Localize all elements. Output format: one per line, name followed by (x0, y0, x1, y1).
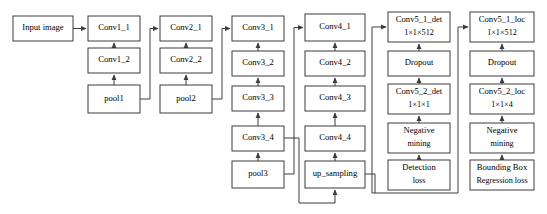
node-label-conv3_1: Conv3_1 (242, 22, 274, 32)
node-sublabel-conv5_2_loc: 1×1×4 (491, 100, 513, 109)
node-conv5_2_loc: Conv5_2_loc1×1×4 (470, 84, 534, 114)
node-label-conv4_4: Conv4_4 (319, 132, 351, 142)
node-sublabel-conv5_2_det: 1×1×1 (408, 100, 430, 109)
node-label-conv5_2_loc: Conv5_2_loc (479, 86, 525, 96)
flowchart-canvas: Input imageConv1_1Conv1_2pool1Conv2_1Con… (0, 0, 547, 214)
node-label-conv5_1_loc: Conv5_1_loc (479, 14, 525, 24)
node-label-bbox_loss: Bounding Box (477, 162, 528, 172)
node-label-dropout_loc: Dropout (488, 57, 517, 67)
node-input_image: Input image (13, 16, 73, 41)
node-conv4_3: Conv4_3 (305, 86, 365, 111)
node-sublabel-negmine_loc: mining (490, 139, 513, 148)
node-sublabel-negmine_det: mining (407, 139, 430, 148)
node-label-conv4_2: Conv4_2 (319, 57, 351, 67)
node-sublabel-conv5_1_loc: 1×1×512 (487, 28, 517, 37)
node-label-negmine_loc: Negative (486, 125, 517, 135)
node-label-negmine_det: Negative (403, 125, 434, 135)
node-sublabel-det_loss: loss (413, 176, 426, 185)
node-label-conv4_3: Conv4_3 (319, 92, 351, 102)
node-conv1_2: Conv1_2 (88, 48, 140, 73)
node-label-input_image: Input image (22, 22, 63, 32)
nodes-layer: Input imageConv1_1Conv1_2pool1Conv2_1Con… (13, 12, 534, 190)
node-bbox_loss: Bounding BoxRegression loss (470, 160, 534, 190)
node-conv2_2: Conv2_2 (160, 48, 212, 73)
node-conv5_1_loc: Conv5_1_loc1×1×512 (470, 12, 534, 42)
edge-pool3-to-conv4_1 (284, 28, 303, 175)
network-architecture-diagram: Input imageConv1_1Conv1_2pool1Conv2_1Con… (0, 0, 547, 214)
node-label-conv5_2_det: Conv5_2_det (396, 86, 443, 96)
node-label-pool1: pool1 (104, 93, 124, 103)
node-dropout_loc: Dropout (470, 51, 534, 76)
node-label-dropout_det: Dropout (405, 57, 434, 67)
node-conv4_4: Conv4_4 (305, 126, 365, 151)
node-negmine_det: Negativemining (388, 123, 450, 153)
node-label-det_loss: Detection (402, 162, 436, 172)
node-label-up_sampling: up_sampling (313, 168, 358, 178)
node-conv3_3: Conv3_3 (232, 86, 284, 111)
node-up_sampling: up_sampling (305, 161, 365, 188)
node-conv5_1_det: Conv5_1_det1×1×512 (388, 12, 450, 42)
node-dropout_det: Dropout (388, 51, 450, 76)
node-label-conv3_4: Conv3_4 (242, 132, 274, 142)
node-label-conv1_2: Conv1_2 (98, 54, 130, 64)
node-label-conv2_1: Conv2_1 (170, 22, 202, 32)
node-conv4_1: Conv4_1 (305, 14, 365, 41)
edge-upsampling-to-det (365, 27, 386, 193)
node-pool1: pool1 (88, 85, 140, 113)
node-label-conv3_3: Conv3_3 (242, 92, 274, 102)
node-label-conv1_1: Conv1_1 (98, 22, 130, 32)
node-negmine_loc: Negativemining (470, 123, 534, 153)
node-label-conv2_2: Conv2_2 (170, 54, 202, 64)
node-conv3_1: Conv3_1 (232, 16, 284, 41)
node-label-conv5_1_det: Conv5_1_det (396, 14, 443, 24)
node-label-pool2: pool2 (176, 93, 196, 103)
node-sublabel-bbox_loss: Regression loss (476, 176, 527, 185)
node-conv3_4: Conv3_4 (232, 126, 284, 151)
node-conv2_1: Conv2_1 (160, 16, 212, 41)
node-conv5_2_det: Conv5_2_det1×1×1 (388, 84, 450, 114)
node-conv4_2: Conv4_2 (305, 51, 365, 76)
node-det_loss: Detectionloss (388, 160, 450, 190)
edge-pool1-to-conv2_1 (140, 29, 158, 100)
edge-pool2-to-conv3_1 (212, 29, 230, 100)
node-label-conv4_1: Conv4_1 (319, 21, 351, 31)
node-pool2: pool2 (160, 85, 212, 113)
node-pool3: pool3 (232, 161, 284, 188)
node-conv3_2: Conv3_2 (232, 51, 284, 76)
node-conv1_1: Conv1_1 (88, 16, 140, 41)
node-label-conv3_2: Conv3_2 (242, 57, 274, 67)
node-label-pool3: pool3 (248, 168, 268, 178)
node-sublabel-conv5_1_det: 1×1×512 (404, 28, 434, 37)
